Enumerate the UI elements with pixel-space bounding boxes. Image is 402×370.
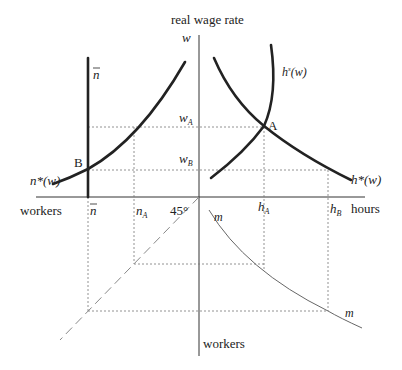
m-curve [209, 210, 362, 328]
h-supply-curve [211, 45, 273, 178]
hB-label: hB [330, 201, 342, 218]
wB-label: wB [179, 151, 193, 168]
w-axis-label: w [182, 30, 191, 45]
labor-market-diagram: real wage rate w n wA wB B A n*(w) hs(w)… [0, 0, 402, 370]
workers-bottom-label: workers [203, 336, 245, 351]
n-bar-axis-label: n [90, 203, 97, 218]
hours-label: hours [351, 201, 380, 216]
point-B-label: B [74, 155, 83, 170]
wA-label: wA [179, 110, 193, 127]
45-degree-label: 45° [170, 203, 188, 218]
workers-left-label: workers [20, 203, 62, 218]
n-star-label: n*(w) [30, 173, 60, 188]
n-star-curve [53, 62, 185, 184]
nA-label: nA [136, 203, 148, 220]
n-bar-top-label: n [93, 67, 100, 82]
h-star-label: h*(w) [351, 172, 381, 187]
diagram-title: real wage rate [171, 12, 244, 27]
m-upper-label: m [214, 210, 223, 224]
m-lower-label: m [345, 306, 354, 320]
45-degree-line [60, 197, 199, 340]
h-supply-label: hs(w) [282, 65, 307, 79]
point-A-label: A [268, 118, 278, 133]
hA-label: hA [258, 199, 270, 216]
